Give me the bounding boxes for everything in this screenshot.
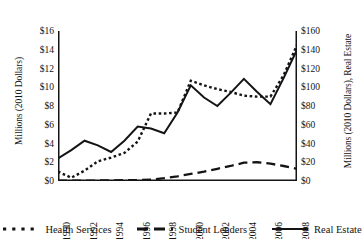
legend-label: Real Estate: [314, 224, 362, 235]
y-axis-ticks-right: $0$20$40$60$80$100$120$140$160: [301, 26, 333, 186]
axis-frame: [59, 31, 297, 180]
y-tick-label-right: $0: [301, 176, 331, 186]
chart-legend: Health ServicesStudent LendersReal Estat…: [0, 219, 364, 239]
y-axis-ticks-left: $0$2$4$6$8$10$12$14$16: [26, 26, 54, 186]
x-axis-ticks: 1990199219941996199820002002200420062008: [58, 184, 298, 224]
y-tick-label-right: $80: [301, 101, 331, 111]
series-line-student-lenders: [58, 162, 297, 180]
y-tick-label-left: $0: [28, 176, 54, 186]
y-tick-label-left: $8: [28, 101, 54, 111]
legend-swatch-solid: [271, 224, 309, 234]
legend-item[interactable]: Health Services: [2, 224, 111, 235]
legend-swatch-dashed: [136, 224, 174, 234]
y-tick-label-left: $16: [28, 26, 54, 36]
legend-swatch-dotted: [2, 224, 40, 234]
y-axis-title-right: Millions (2010 Dollars), Real Estate: [343, 19, 353, 184]
legend-item[interactable]: Student Lenders: [136, 224, 248, 235]
y-tick-label-right: $140: [301, 45, 331, 55]
y-tick-label-right: $120: [301, 64, 331, 74]
plot-area: [58, 31, 297, 181]
y-tick-label-right: $40: [301, 139, 331, 149]
y-axis-title-left: Millions (2010 Dollars): [14, 26, 24, 176]
legend-label: Student Lenders: [179, 224, 248, 235]
y-tick-label-left: $12: [28, 64, 54, 74]
y-tick-label-right: $100: [301, 82, 331, 92]
y-tick-label-left: $14: [28, 45, 54, 55]
plot-svg: [58, 31, 297, 181]
y-tick-label-right: $60: [301, 120, 331, 130]
series-line-real-estate: [58, 50, 297, 159]
y-tick-label-right: $160: [301, 26, 331, 36]
legend-label: Health Services: [45, 224, 111, 235]
y-tick-label-left: $6: [28, 120, 54, 130]
y-tick-label-left: $2: [28, 157, 54, 167]
legend-item[interactable]: Real Estate: [271, 224, 362, 235]
y-tick-label-right: $20: [301, 157, 331, 167]
y-tick-label-left: $10: [28, 82, 54, 92]
y-tick-label-left: $4: [28, 139, 54, 149]
chart-figure: Millions (2010 Dollars) Millions (2010 D…: [0, 0, 364, 239]
